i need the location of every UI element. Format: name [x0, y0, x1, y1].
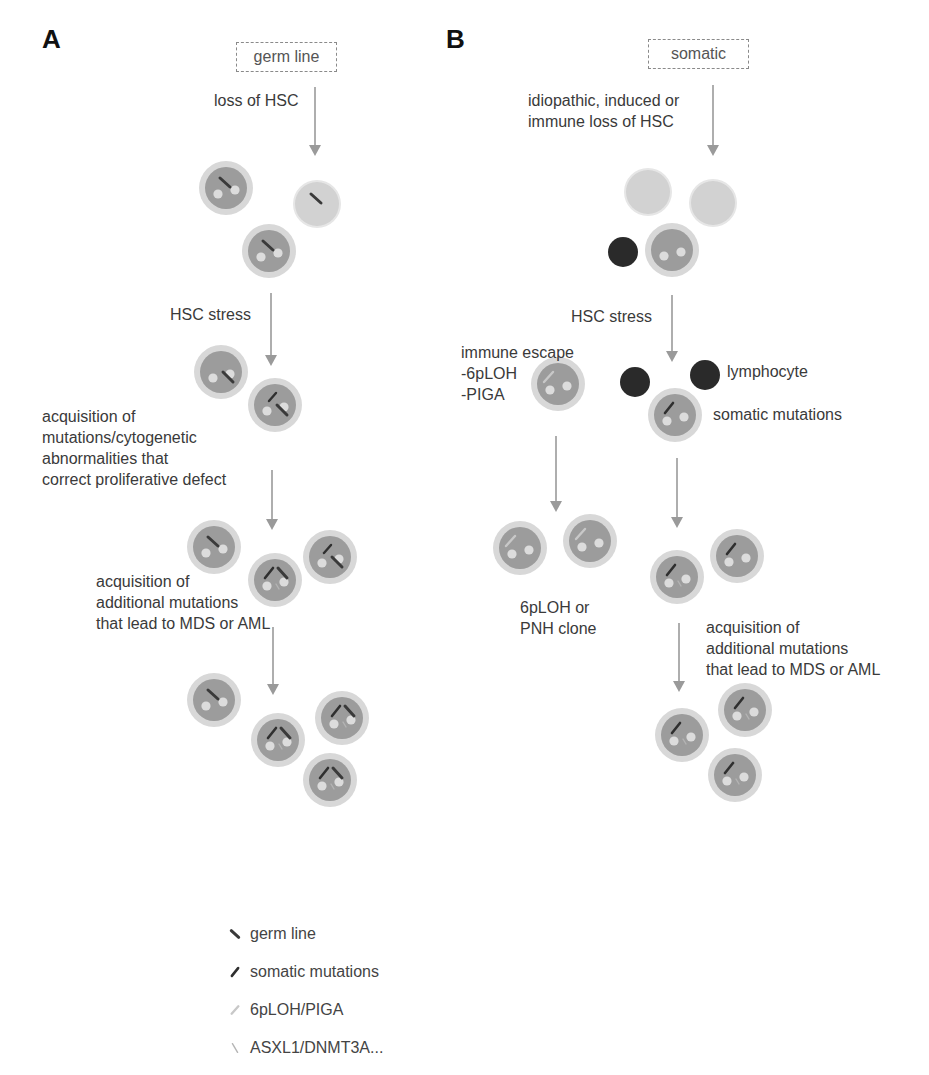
hsc-cell-icon [199, 161, 253, 215]
down-arrow-icon [267, 627, 279, 695]
legend-item-6ploh-piga: 6pLOH/PIGA [228, 1001, 343, 1019]
panel-b-origin-box: somatic [648, 39, 749, 69]
down-arrow-icon [666, 295, 678, 362]
asxl1-mark-icon [228, 1041, 242, 1055]
down-arrow-icon [266, 470, 278, 530]
germ-line-mark-icon [228, 927, 242, 941]
hsc-cell-icon [650, 550, 704, 604]
down-arrow-icon [671, 458, 683, 528]
hsc-cell-icon [563, 514, 617, 568]
panel-b-letter: B [446, 24, 465, 55]
down-arrow-icon [550, 436, 562, 512]
panel-a-label-stress: HSC stress [170, 304, 251, 325]
hsc-cell-icon [187, 673, 241, 727]
somatic-mutation-mark-icon [228, 965, 242, 979]
legend-label: germ line [250, 925, 316, 943]
panel-a-origin-box: germ line [236, 42, 337, 72]
panel-b-label-loss: idiopathic, induced or immune loss of HS… [528, 90, 679, 132]
down-arrow-icon [707, 85, 719, 156]
hsc-cell-icon [645, 223, 699, 277]
depleted-cell-icon [689, 179, 737, 227]
hsc-cell-icon [708, 748, 762, 802]
panel-a-letter: A [42, 24, 61, 55]
hsc-cell-icon [718, 683, 772, 737]
hsc-cell-icon [187, 520, 241, 574]
panel-a-label-acquisition-1: acquisition of mutations/cytogenetic abn… [42, 406, 226, 490]
panel-b-label-somatic-mutations: somatic mutations [713, 404, 842, 425]
hsc-cell-icon [251, 713, 305, 767]
depleted-cell-icon [624, 168, 672, 216]
hsc-cell-icon [303, 530, 357, 584]
legend-label: ASXL1/DNMT3A... [250, 1039, 383, 1057]
panel-b-label-lymphocyte: lymphocyte [727, 361, 808, 382]
lymphocyte-cell-icon [620, 367, 650, 397]
hsc-cell-icon [655, 708, 709, 762]
legend-label: somatic mutations [250, 963, 379, 981]
panel-b-label-immune-escape: immune escape -6pLOH -PIGA [461, 342, 574, 405]
hsc-cell-icon [648, 388, 702, 442]
hsc-cell-icon [242, 224, 296, 278]
down-arrow-icon [309, 87, 321, 156]
hsc-cell-icon [493, 521, 547, 575]
legend-item-somatic: somatic mutations [228, 963, 379, 981]
legend-item-asxl1-dnmt3a: ASXL1/DNMT3A... [228, 1039, 383, 1057]
down-arrow-icon [265, 293, 277, 366]
lymphocyte-cell-icon [690, 360, 720, 390]
panel-b-label-stress: HSC stress [571, 306, 652, 327]
hsc-cell-icon [248, 378, 302, 432]
panel-a-label-acquisition-2: acquisition of additional mutations that… [96, 571, 270, 634]
hsc-cell-icon [710, 529, 764, 583]
legend-label: 6pLOH/PIGA [250, 1001, 343, 1019]
piga-mark-icon [228, 1003, 242, 1017]
panel-a-origin-label: germ line [254, 48, 320, 66]
legend-item-germ-line: germ line [228, 925, 316, 943]
panel-a-label-loss: loss of HSC [214, 90, 298, 111]
down-arrow-icon [673, 623, 685, 692]
hsc-cell-icon [194, 345, 248, 399]
hsc-cell-icon [315, 691, 369, 745]
hsc-cell-icon [303, 753, 357, 807]
figure-stage: A germ line loss of HSC HSC stress acqui… [0, 0, 929, 1075]
panel-b-label-acquisition: acquisition of additional mutations that… [706, 617, 880, 680]
diagram-canvas [0, 0, 929, 1075]
depleted-cell-icon [293, 180, 341, 228]
panel-b-origin-label: somatic [671, 45, 726, 63]
lymphocyte-cell-icon [608, 237, 638, 267]
panel-b-label-clone: 6pLOH or PNH clone [520, 597, 596, 639]
